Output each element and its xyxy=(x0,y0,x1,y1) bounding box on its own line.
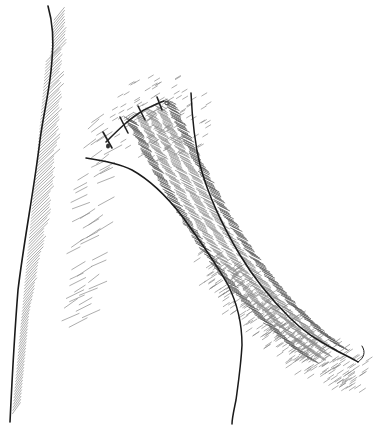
body-left-contour xyxy=(10,6,53,422)
flap-hatching xyxy=(110,75,372,392)
flap-tip-contour xyxy=(358,346,364,362)
flap-illustration xyxy=(0,0,386,446)
suture-knot xyxy=(106,143,110,148)
flap-lower-contour xyxy=(86,158,242,424)
illustration-canvas: Line drawing of a tubular skin flap aris… xyxy=(0,0,386,446)
